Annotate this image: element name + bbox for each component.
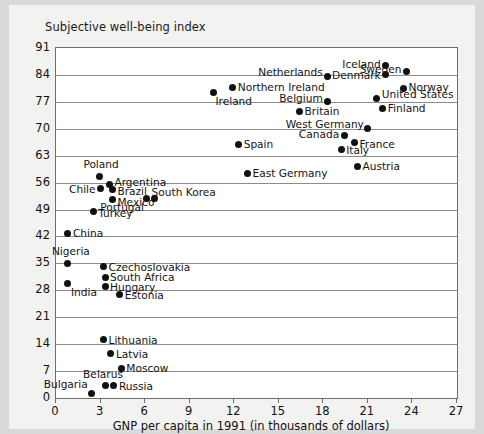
x-tick-label: 27: [449, 404, 464, 418]
point-label: Denmark: [332, 70, 381, 81]
x-tick-label: 21: [360, 404, 375, 418]
x-tick-label: 6: [140, 404, 147, 418]
data-point: [296, 108, 303, 115]
point-label: Russia: [119, 380, 153, 391]
data-point: [235, 141, 242, 148]
x-tick-mark: [322, 398, 323, 403]
point-label: Latvia: [116, 348, 148, 359]
data-point: [100, 336, 107, 343]
x-tick-label: 3: [96, 404, 103, 418]
point-label: South Korea: [152, 186, 216, 197]
y-tick-label: 28: [35, 282, 50, 296]
y-tick-label: 84: [35, 67, 50, 81]
data-point: [102, 283, 109, 290]
point-label: United States: [382, 89, 454, 100]
point-label: East Germany: [253, 168, 328, 179]
data-point: [382, 71, 389, 78]
y-tick-label: 91: [35, 40, 50, 54]
gridline-y: [56, 129, 457, 130]
y-tick-label: 70: [35, 121, 50, 135]
x-tick-label: 0: [51, 404, 58, 418]
point-label: Lithuania: [109, 334, 158, 345]
data-point: [116, 291, 123, 298]
point-label: Turkey: [98, 208, 132, 219]
point-label: Belgium: [279, 93, 322, 104]
data-point: [373, 95, 380, 102]
data-point: [229, 84, 236, 91]
point-label: Brazil: [117, 186, 147, 197]
data-point: [97, 185, 104, 192]
gridline-y: [56, 317, 457, 318]
y-tick-label: 14: [35, 336, 50, 350]
point-label: Estonia: [125, 289, 164, 300]
data-point: [109, 186, 116, 193]
point-label: Italy: [346, 145, 369, 156]
x-tick-mark: [189, 398, 190, 403]
point-label: Canada: [299, 128, 339, 139]
data-point: [64, 230, 71, 237]
point-label: Finland: [388, 103, 426, 114]
x-tick-mark: [456, 398, 457, 403]
point-label: Moscow: [126, 363, 168, 374]
y-tick-label: 49: [35, 202, 50, 216]
page-title: Subjective well-being index: [45, 20, 206, 34]
point-label: Chile: [69, 183, 96, 194]
point-label: India: [71, 287, 97, 298]
data-point: [338, 146, 345, 153]
data-point: [364, 125, 371, 132]
x-tick-label: 18: [315, 404, 330, 418]
data-point: [403, 68, 410, 75]
y-tick-label: 77: [35, 94, 50, 108]
point-label: Belarus: [83, 369, 123, 380]
y-tick-label: 63: [35, 148, 50, 162]
plot-area: IcelandSwedenDenmarkNetherlandsNorwayNor…: [55, 47, 458, 399]
data-point: [324, 73, 331, 80]
data-point: [64, 260, 71, 267]
x-tick-label: 12: [226, 404, 241, 418]
data-point: [107, 350, 114, 357]
point-label: Spain: [244, 139, 274, 150]
data-point: [88, 390, 95, 397]
x-tick-mark: [278, 398, 279, 403]
data-point: [354, 163, 361, 170]
data-point: [244, 170, 251, 177]
chart-page: Subjective well-being index 071421283542…: [0, 0, 484, 434]
y-axis-labels: 07142128354249566370778491: [9, 47, 50, 397]
point-label: Ireland: [215, 95, 252, 106]
point-label: Poland: [83, 160, 118, 171]
point-label: Nigeria: [52, 247, 90, 258]
gridline-y: [56, 236, 457, 237]
chart-panel: Subjective well-being index 071421283542…: [9, 5, 475, 429]
y-tick-label: 21: [35, 309, 50, 323]
data-point: [96, 173, 103, 180]
y-tick-label: 0: [43, 390, 50, 404]
x-tick-mark: [144, 398, 145, 403]
x-tick-mark: [55, 398, 56, 403]
data-point: [102, 382, 109, 389]
gridline-y: [56, 75, 457, 76]
x-tick-label: 24: [404, 404, 419, 418]
data-point: [341, 132, 348, 139]
x-tick-mark: [100, 398, 101, 403]
point-label: Britain: [305, 106, 340, 117]
y-tick-label: 35: [35, 255, 50, 269]
x-tick-mark: [367, 398, 368, 403]
x-tick-mark: [233, 398, 234, 403]
x-axis-title: GNP per capita in 1991 (in thousands of …: [9, 419, 484, 433]
point-label: China: [73, 228, 103, 239]
data-point: [90, 208, 97, 215]
gridline-y: [56, 156, 457, 157]
data-point: [379, 105, 386, 112]
data-point: [151, 195, 158, 202]
data-point: [100, 263, 107, 270]
data-point: [110, 382, 117, 389]
x-axis-ticks: [55, 398, 458, 404]
point-label: Austria: [362, 161, 399, 172]
data-point: [102, 274, 109, 281]
x-tick-label: 15: [270, 404, 285, 418]
x-tick-mark: [411, 398, 412, 403]
y-tick-label: 7: [43, 363, 50, 377]
point-label: Netherlands: [258, 67, 323, 78]
point-label: Bulgaria: [44, 379, 88, 390]
y-tick-label: 56: [35, 175, 50, 189]
